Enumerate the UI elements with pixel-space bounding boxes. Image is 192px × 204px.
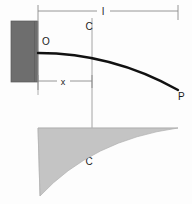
beam-curve-path bbox=[38, 53, 178, 90]
dimension-x-label: x bbox=[61, 77, 66, 87]
dimension-distance-x: x bbox=[38, 75, 92, 90]
beam-deflection-curve: O P bbox=[38, 36, 185, 102]
bending-moment-diagram bbox=[38, 128, 178, 196]
wall-block-rect bbox=[11, 21, 38, 82]
dimension-l-label: l bbox=[102, 6, 104, 17]
cantilever-beam-figure: l C C O P x bbox=[0, 0, 192, 204]
dimension-span-l: l bbox=[38, 5, 178, 20]
wall-support-block bbox=[11, 20, 38, 95]
origin-label-o: O bbox=[42, 36, 50, 47]
load-point-label-p: P bbox=[178, 91, 185, 102]
diagram-canvas: l C C O P x bbox=[0, 0, 192, 204]
moment-diagram-shape bbox=[38, 128, 178, 196]
section-label-top: C bbox=[85, 21, 92, 32]
